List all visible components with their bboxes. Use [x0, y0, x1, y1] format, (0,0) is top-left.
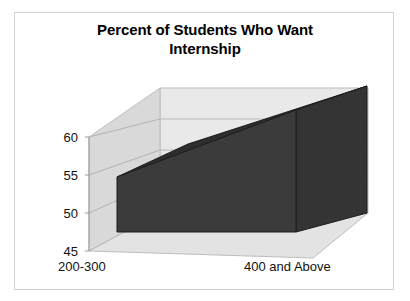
- x-axis-category-label-400-and-above: 400 and Above: [244, 260, 331, 274]
- y-axis-tick-label-55: 55: [44, 169, 78, 182]
- area-series-side-face: [296, 86, 367, 232]
- chart-container: Percent of Students Who Want Internship: [0, 0, 410, 301]
- y-axis-tick-label-50: 50: [44, 207, 78, 220]
- x-axis-category-label-200-300: 200-300: [58, 260, 106, 274]
- y-axis-tick-label-45: 45: [44, 245, 78, 258]
- y-axis-tick-label-60: 60: [44, 131, 78, 144]
